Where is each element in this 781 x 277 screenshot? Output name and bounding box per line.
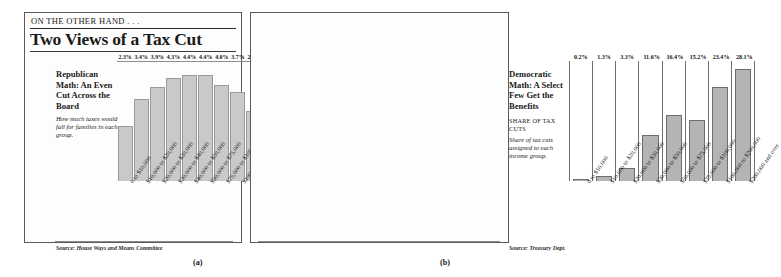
bar-value-label: 28.1% bbox=[736, 54, 753, 60]
bar-column: 0.2% bbox=[569, 61, 592, 181]
bar-value-label: 1.3% bbox=[597, 54, 611, 60]
panel-b-heading: Democratic Math: A Select Few Get the Be… bbox=[509, 69, 567, 111]
kicker-text: ON THE OTHER HAND . . . bbox=[31, 16, 235, 26]
bar-value-label: 15.2% bbox=[690, 54, 707, 60]
chart-b-plot-area: 0.2%1.3%3.3%11.6%16.4%15.2%23.4%28.1% bbox=[569, 61, 755, 181]
bar-value-label: 3.4% bbox=[135, 54, 148, 60]
panel-a-source-divider bbox=[55, 241, 233, 242]
bar-value-label: 11.6% bbox=[643, 54, 659, 60]
panel-b-caption-block: Democratic Math: A Select Few Get the Be… bbox=[509, 69, 567, 160]
figure-caption-b: (b) bbox=[440, 258, 450, 267]
page-title: Two Views of a Tax Cut bbox=[30, 29, 202, 50]
chart-a-x-axis: 0 to $10,000$10,000 to $20,000$20,000 to… bbox=[117, 181, 262, 243]
bar-value-label: 4.4% bbox=[199, 54, 212, 60]
bar-value-label: 3.9% bbox=[151, 54, 164, 60]
bar-value-label: 0.2% bbox=[574, 54, 588, 60]
title-divider bbox=[30, 51, 236, 52]
panel-a-heading: Republican Math: An Even Cut Across the … bbox=[56, 69, 118, 111]
bar-value-label: 4.3% bbox=[167, 54, 180, 60]
bar-value-label: 3.7% bbox=[231, 54, 244, 60]
bar-value-label: 4.0% bbox=[215, 54, 228, 60]
figure-caption-a: (a) bbox=[193, 258, 203, 267]
panel-b: Democratic Math: A Select Few Get the Be… bbox=[250, 12, 509, 243]
bar-value-label: 3.3% bbox=[620, 54, 634, 60]
panel-a-caption-block: Republican Math: An Even Cut Across the … bbox=[56, 69, 118, 139]
panel-a-source: Source: House Ways and Means Committee bbox=[56, 245, 162, 251]
panel-b-source: Source: Treasury Dept. bbox=[509, 245, 566, 251]
panel-b-source-divider bbox=[258, 241, 500, 242]
panel-b-description: Share of tax cuts assigned to each incom… bbox=[509, 136, 567, 159]
bar: 2.3% bbox=[118, 126, 133, 181]
bar-value-label: 2.3% bbox=[119, 54, 132, 60]
bar-value-label: 16.4% bbox=[667, 54, 684, 60]
panel-b-subhead: SHARE OF TAX CUTS bbox=[509, 117, 567, 132]
bar-column: 2.3% bbox=[117, 61, 133, 181]
bar-value-label: 23.4% bbox=[713, 54, 730, 60]
panel-a: ON THE OTHER HAND . . . Two Views of a T… bbox=[24, 12, 242, 243]
panel-a-description: How much taxes would fall for families i… bbox=[56, 115, 118, 138]
chart-b-x-axis: 0 to $10,000$10,000 to $20,000$20,000 to… bbox=[569, 181, 755, 243]
bar-value-label: 4.4% bbox=[183, 54, 196, 60]
